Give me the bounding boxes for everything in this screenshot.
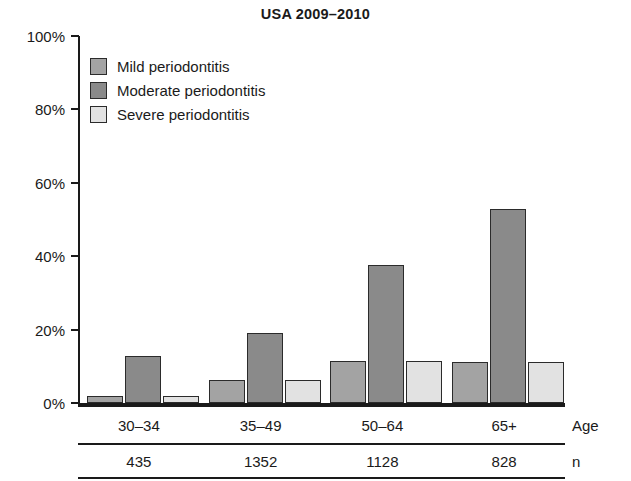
table-rule	[78, 443, 565, 445]
table-rule	[78, 477, 565, 479]
age-group-cell: 35–49	[201, 418, 321, 433]
bar	[368, 265, 404, 403]
summary-table: 30–3435–4950–6465+43513521128828Agen	[78, 405, 631, 481]
bar	[406, 361, 442, 403]
bar-group	[326, 36, 448, 403]
y-axis-tick-label: 60%	[35, 176, 65, 191]
y-axis-tick-label: 20%	[35, 323, 65, 338]
sample-size-cell: 1352	[201, 454, 321, 469]
bar	[452, 362, 488, 403]
bar	[490, 209, 526, 404]
age-group-cell: 30–34	[79, 418, 199, 433]
y-axis-tick-label: 40%	[35, 249, 65, 264]
chart-title: USA 2009–2010	[0, 6, 631, 22]
age-group-cell: 50–64	[322, 418, 442, 433]
chart-figure: USA 2009–2010 0%20%40%60%80%100% Mild pe…	[0, 0, 631, 481]
bar	[330, 361, 366, 403]
bar	[87, 396, 123, 403]
legend-swatch-icon	[90, 58, 107, 75]
legend-swatch-icon	[90, 106, 107, 123]
legend-swatch-icon	[90, 82, 107, 99]
bar	[209, 380, 245, 403]
bar	[125, 356, 161, 403]
legend-label: Moderate periodontitis	[117, 83, 265, 98]
age-group-cell: 65+	[444, 418, 564, 433]
legend-item: Moderate periodontitis	[90, 78, 265, 102]
sample-size-cell: 435	[79, 454, 199, 469]
sample-size-cell: 1128	[322, 454, 442, 469]
bar	[285, 380, 321, 403]
bar	[163, 396, 199, 403]
table-rule	[78, 405, 565, 407]
chart-legend: Mild periodontitisModerate periodontitis…	[90, 54, 265, 126]
legend-item: Mild periodontitis	[90, 54, 265, 78]
y-axis-tick-label: 80%	[35, 102, 65, 117]
legend-label: Severe periodontitis	[117, 107, 250, 122]
legend-label: Mild periodontitis	[117, 59, 230, 74]
y-axis-tick-label: 0%	[43, 396, 65, 411]
bar-group	[447, 36, 569, 403]
bar	[247, 333, 283, 403]
row-label-n: n	[572, 454, 580, 469]
sample-size-cell: 828	[444, 454, 564, 469]
legend-item: Severe periodontitis	[90, 102, 265, 126]
row-label-age: Age	[572, 418, 599, 433]
bar	[528, 362, 564, 403]
y-axis-tick-label: 100%	[27, 29, 65, 44]
